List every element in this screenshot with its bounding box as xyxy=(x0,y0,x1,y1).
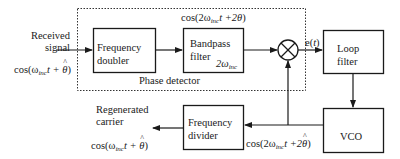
vco-output-suffix: ) xyxy=(307,138,311,149)
input-label: Received signal xyxy=(28,30,70,54)
output-expr-mid: t + xyxy=(124,140,139,151)
bpf-output-expression: cos(2ωinct +2θ) xyxy=(181,12,246,27)
bpf-output-mid: t +2 xyxy=(219,12,237,23)
error-suffix: ) xyxy=(316,37,320,48)
vco-output-prefix: cos(2ω xyxy=(246,138,276,149)
frequency-divider-label: Frequency divider xyxy=(188,116,232,142)
output-label: Regenerated carrier xyxy=(96,104,148,128)
bandpass-center-frequency: 2ωinc xyxy=(216,58,237,73)
output-expression: cos(ωinct + θ) xyxy=(91,140,148,155)
frequency-divider-line2: divider xyxy=(188,129,232,142)
carrier-recovery-diagram: Received signal cos(ωinct + θ) Frequency… xyxy=(0,0,400,159)
phase-detector-label: Phase detector xyxy=(139,75,200,87)
bpf-output-sub: inc xyxy=(211,17,220,25)
output-expr-theta: θ xyxy=(139,140,144,152)
input-expr-mid: t + xyxy=(47,64,62,75)
output-label-line2: carrier xyxy=(96,116,148,128)
input-label-line1: Received xyxy=(28,30,70,42)
vco-output-expression: cos(2ωinct +2θ) xyxy=(246,138,311,153)
input-expression: cos(ωinct + θ) xyxy=(14,64,71,79)
bpf-output-suffix: ) xyxy=(242,12,246,23)
vco-output-mid: t +2 xyxy=(284,138,302,149)
input-expr-theta: θ xyxy=(62,64,67,76)
error-prefix: e( xyxy=(305,37,313,48)
error-signal-label: e(t) xyxy=(305,37,320,49)
bpf-output-prefix: cos(2ω xyxy=(181,12,211,23)
bandpass-filter-line1: Bandpass xyxy=(190,37,230,50)
vco-output-theta: θ xyxy=(302,138,307,150)
input-expr-suffix: ) xyxy=(67,64,71,75)
loop-filter-label: Loop filter xyxy=(337,42,359,68)
output-label-line1: Regenerated xyxy=(96,104,148,116)
input-expr-sub: inc xyxy=(38,69,47,77)
input-expr-prefix: cos(ω xyxy=(14,64,38,75)
loop-filter-line2: filter xyxy=(337,55,359,68)
loop-filter-line1: Loop xyxy=(337,42,359,55)
multiplier-icon xyxy=(278,40,298,60)
output-expr-suffix: ) xyxy=(144,140,148,151)
frequency-divider-line1: Frequency xyxy=(188,116,232,129)
vco-output-sub: inc xyxy=(276,143,285,151)
frequency-doubler-line2: doubler xyxy=(97,54,141,67)
bpf-center-prefix: 2ω xyxy=(216,58,229,69)
frequency-doubler-line1: Frequency xyxy=(97,41,141,54)
bpf-center-sub: inc xyxy=(229,63,238,71)
frequency-doubler-label: Frequency doubler xyxy=(97,41,141,67)
input-label-line2: signal xyxy=(26,42,70,54)
vco-label: VCO xyxy=(340,130,362,143)
output-expr-prefix: cos(ω xyxy=(91,140,115,151)
output-expr-sub: inc xyxy=(115,145,124,153)
